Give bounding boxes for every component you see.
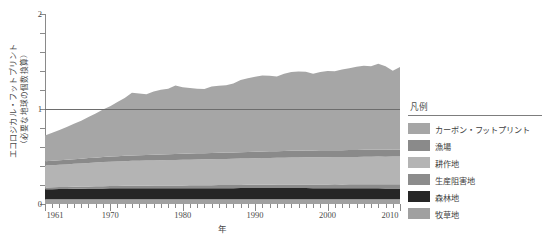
legend-item-2[interactable]: 耕作地 xyxy=(408,154,547,171)
y-tick xyxy=(40,185,45,186)
x-tick xyxy=(175,204,176,208)
y-tick-label: 1 xyxy=(38,104,42,114)
x-tick xyxy=(313,204,314,208)
x-tick xyxy=(291,204,292,208)
x-tick xyxy=(299,204,300,208)
legend-swatch-icon xyxy=(408,174,430,185)
x-tick xyxy=(197,204,198,208)
area-series-森林地 xyxy=(45,188,400,199)
x-tick-label: 2010 xyxy=(382,210,399,220)
x-tick xyxy=(132,204,133,208)
y-axis-title-line2: （必要な地球の個数換算） xyxy=(18,50,29,148)
x-tick xyxy=(277,204,278,208)
x-tick xyxy=(364,204,365,208)
x-tick-label: 1990 xyxy=(247,210,264,220)
x-tick xyxy=(88,204,89,208)
x-tick xyxy=(320,204,321,208)
x-tick xyxy=(248,204,249,208)
x-tick xyxy=(59,204,60,208)
x-tick-label: 1980 xyxy=(174,210,191,220)
y-tick-label: 0 xyxy=(38,199,42,209)
area-series-牧草地 xyxy=(45,199,400,204)
y-tick xyxy=(40,52,45,53)
legend-title: 凡例 xyxy=(410,100,547,112)
x-tick-label: 1961 xyxy=(47,210,64,220)
y-tick xyxy=(40,128,45,129)
legend-item-label: 漁場 xyxy=(435,140,451,152)
legend-item-5[interactable]: 牧草地 xyxy=(408,205,547,222)
x-tick xyxy=(204,204,205,208)
legend-item-3[interactable]: 生産阻害地 xyxy=(408,171,547,188)
x-tick xyxy=(335,204,336,208)
y-tick xyxy=(40,90,45,91)
x-tick xyxy=(96,204,97,208)
x-tick xyxy=(139,204,140,208)
y-tick xyxy=(40,147,45,148)
x-tick xyxy=(226,204,227,208)
x-tick xyxy=(284,204,285,208)
x-tick xyxy=(117,204,118,208)
legend-divider xyxy=(408,115,542,116)
x-tick xyxy=(241,204,242,208)
x-tick xyxy=(67,204,68,208)
x-tick xyxy=(357,204,358,208)
x-tick xyxy=(393,204,394,208)
x-tick-label: 1970 xyxy=(102,210,119,220)
x-axis-title: 年 xyxy=(45,222,400,234)
legend-swatch-icon xyxy=(408,140,430,151)
x-tick-label: 2000 xyxy=(319,210,336,220)
plot-area: 012 196119701980199020002010 xyxy=(45,14,400,204)
x-tick xyxy=(52,204,53,208)
x-tick xyxy=(386,204,387,208)
x-tick xyxy=(190,204,191,208)
y-tick xyxy=(40,33,45,34)
legend-item-label: 生産阻害地 xyxy=(435,174,475,186)
legend-swatch-icon xyxy=(408,208,430,219)
legend-item-4[interactable]: 森林地 xyxy=(408,188,547,205)
x-tick xyxy=(378,204,379,208)
x-tick xyxy=(146,204,147,208)
reference-line-one-earth xyxy=(45,109,400,110)
x-tick xyxy=(306,204,307,208)
x-tick xyxy=(233,204,234,208)
x-tick xyxy=(125,204,126,208)
x-tick xyxy=(74,204,75,208)
x-tick xyxy=(103,204,104,208)
area-series-カーボン・フットプリント xyxy=(45,64,400,162)
x-tick xyxy=(168,204,169,208)
legend-swatch-icon xyxy=(408,157,430,168)
x-tick xyxy=(154,204,155,208)
legend: 凡例 カーボン・フットプリント漁場耕作地生産阻害地森林地牧草地 xyxy=(408,100,547,222)
legend-item-1[interactable]: 漁場 xyxy=(408,137,547,154)
x-tick xyxy=(161,204,162,208)
legend-item-0[interactable]: カーボン・フットプリント xyxy=(408,120,547,137)
legend-item-label: 耕作地 xyxy=(435,157,459,169)
y-tick-label: 2 xyxy=(38,9,42,19)
legend-swatch-icon xyxy=(408,191,430,202)
y-tick xyxy=(40,166,45,167)
x-tick xyxy=(219,204,220,208)
legend-item-label: 牧草地 xyxy=(435,208,459,220)
y-tick xyxy=(40,71,45,72)
legend-item-label: 森林地 xyxy=(435,191,459,203)
y-axis-title: エコロジカル・フットプリント （必要な地球の個数換算） xyxy=(0,0,36,210)
x-tick xyxy=(270,204,271,208)
x-tick xyxy=(342,204,343,208)
chart-root: エコロジカル・フットプリント （必要な地球の個数換算） 012 19611970… xyxy=(0,0,547,247)
x-tick xyxy=(81,204,82,208)
x-tick xyxy=(212,204,213,208)
x-tick xyxy=(400,204,401,211)
x-tick xyxy=(371,204,372,208)
x-tick xyxy=(349,204,350,208)
legend-item-label: カーボン・フットプリント xyxy=(435,123,530,135)
y-axis-title-line1: エコロジカル・フットプリント xyxy=(6,44,18,159)
legend-swatch-icon xyxy=(408,123,430,134)
x-tick xyxy=(262,204,263,208)
